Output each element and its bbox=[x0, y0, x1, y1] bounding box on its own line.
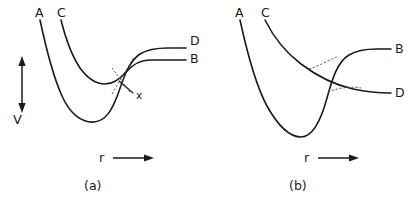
curve-label-c: C bbox=[57, 7, 66, 20]
crossing-label-x: x bbox=[136, 90, 143, 101]
curve-label-b-right: B bbox=[395, 43, 404, 56]
curve-label-d-right: D bbox=[395, 87, 405, 100]
panel-b-plot bbox=[205, 0, 409, 204]
curve-label-a: A bbox=[35, 7, 44, 20]
curve-label-a-b-panel: A bbox=[235, 7, 244, 20]
axis-label-v: V bbox=[13, 113, 22, 126]
avoided-dash-upper bbox=[309, 57, 337, 69]
panel-caption-a: (a) bbox=[84, 180, 101, 193]
curve-a-to-d bbox=[40, 20, 186, 122]
axis-label-r-a: r bbox=[99, 151, 104, 164]
horizontal-axis-arrow bbox=[113, 154, 154, 161]
horizontal-axis-arrow-b bbox=[318, 154, 359, 161]
curve-c-to-d bbox=[265, 20, 391, 93]
diabatic-dash-upper bbox=[112, 57, 134, 94]
curve-c-to-b bbox=[61, 20, 186, 84]
axis-label-r-b: r bbox=[304, 151, 309, 164]
curve-a-to-b bbox=[240, 20, 391, 137]
potential-energy-curve-figure: A C D B x V r (a) A C B D r (b bbox=[0, 0, 409, 204]
panel-a-plot bbox=[0, 0, 204, 204]
vertical-axis-arrow bbox=[18, 56, 25, 113]
panel-a: A C D B x V r (a) bbox=[0, 0, 204, 204]
curve-label-b: B bbox=[190, 53, 199, 66]
curve-label-d: D bbox=[190, 35, 200, 48]
panel-b: A C B D r (b) bbox=[205, 0, 409, 204]
panel-caption-b: (b) bbox=[289, 180, 307, 193]
curve-label-c-b-panel: C bbox=[261, 7, 270, 20]
